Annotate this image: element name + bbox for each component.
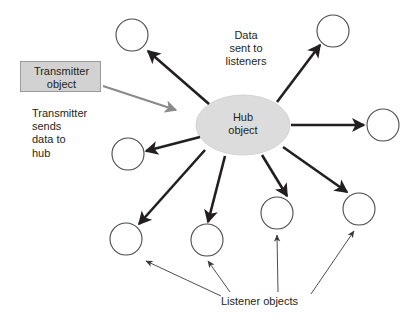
arrow-hub-to-top-right (277, 45, 320, 102)
listener-circle-bottom-left (110, 223, 142, 255)
listener-circle-left (112, 138, 144, 170)
arrow-transmitter-to-hub (103, 86, 176, 110)
arrow-hub-to-top-left (148, 51, 209, 104)
transmitter-object-box[interactable]: Transmitter object (20, 61, 101, 92)
diagram-canvas: Transmitter object Hub object Transmitte… (0, 0, 419, 322)
hub-object-label: Hub object (214, 111, 272, 137)
listener-circle-top-right (317, 15, 349, 47)
listener-objects-label: Listener objects (221, 295, 298, 308)
arrow-hub-to-bottom-right (262, 155, 287, 196)
callout-to-bottom-left (146, 261, 221, 296)
listener-circle-bottom-mid (191, 224, 223, 256)
listener-circle-bottom-right (261, 197, 293, 229)
callout-to-bottom-mid (208, 261, 230, 292)
callout-to-bottom-right (277, 235, 278, 292)
data-sent-to-listeners-note: Data sent to listeners (210, 29, 282, 69)
arrow-hub-to-bottom-mid (208, 156, 225, 222)
transmitter-sends-data-note: Transmitter sends data to hub (32, 107, 87, 160)
listener-callout-arrows-group (146, 231, 354, 296)
arrow-hub-to-far-right (283, 147, 347, 192)
listener-circle-top-left (116, 19, 148, 51)
arrow-hub-to-left (146, 137, 200, 151)
listener-circle-far-right (343, 193, 375, 225)
transmitter-object-label: Transmitter object (21, 65, 102, 91)
callout-to-far-right (311, 231, 354, 294)
arrow-hub-to-bottom-left (139, 150, 205, 224)
listener-circle-right (367, 109, 399, 141)
